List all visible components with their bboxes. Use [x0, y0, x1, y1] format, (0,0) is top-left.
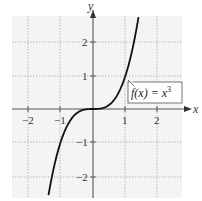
y-tick-label: 1 — [82, 70, 88, 82]
x-tick-label: −2 — [22, 114, 34, 126]
function-label: f(x) = x3 — [131, 85, 171, 100]
x-axis-arrow-icon — [184, 106, 192, 112]
x-tick-label: 2 — [154, 114, 160, 126]
function-label-callout: f(x) = x3 — [128, 80, 182, 103]
y-tick-label: −2 — [76, 171, 88, 183]
x-axis-label: x — [192, 102, 199, 116]
y-tick-label: −1 — [76, 136, 88, 148]
x-tick-label: −1 — [54, 114, 66, 126]
y-tick-label: 2 — [82, 36, 88, 48]
cubic-function-graph: y x −2 −1 1 2 2 1 −1 −2 f(x) = x3 — [0, 0, 202, 201]
x-tick-label: 1 — [122, 114, 128, 126]
y-axis-label: y — [87, 0, 94, 13]
